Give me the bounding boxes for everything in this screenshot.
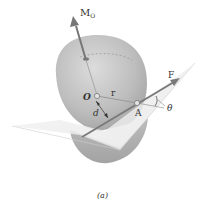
moment-diagram-figure: MO O r A F θ d (a) <box>0 0 209 208</box>
label-r: r <box>111 88 116 98</box>
label-O: O <box>83 92 91 102</box>
label-d: d <box>93 108 99 118</box>
point-A <box>134 100 139 105</box>
figure-caption: (a) <box>97 191 108 200</box>
point-O <box>94 93 99 98</box>
label-F: F <box>168 70 174 80</box>
label-A: A <box>134 108 142 118</box>
label-moment-MO: MO <box>80 7 95 19</box>
label-theta: θ <box>167 103 173 113</box>
diagram-canvas: MO O r A F θ d (a) <box>0 0 209 208</box>
